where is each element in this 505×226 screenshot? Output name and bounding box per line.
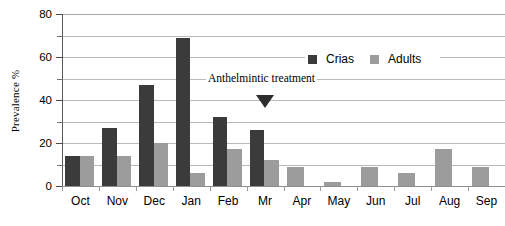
- x-axis-tick-label: Jan: [173, 193, 210, 209]
- legend-swatch-icon: [308, 55, 317, 64]
- bar-adults: [287, 167, 304, 186]
- bar-crias: [102, 128, 117, 186]
- x-axis-tick-label: Jul: [394, 193, 431, 209]
- x-axis-tick-label: Oct: [62, 193, 99, 209]
- bar-adults: [154, 143, 169, 186]
- bar-adults: [264, 160, 279, 186]
- x-axis-tick: [284, 186, 285, 191]
- x-axis-tick: [99, 186, 100, 191]
- legend-label: Adults: [388, 52, 421, 66]
- legend-entry: Adults: [370, 52, 437, 66]
- y-axis-tick-label: 20: [22, 138, 52, 148]
- bar-adults: [117, 156, 132, 186]
- bar-adults: [80, 156, 95, 186]
- x-axis-tick: [136, 186, 137, 191]
- x-axis-tick: [468, 186, 469, 191]
- bar-adults: [398, 173, 415, 186]
- y-axis-tick-label: 80: [22, 9, 52, 19]
- chart-legend: CriasAdults: [305, 50, 440, 68]
- x-axis-tick: [431, 186, 432, 191]
- x-axis-tick-label: Dec: [136, 193, 173, 209]
- x-axis-tick-label: May: [320, 193, 357, 209]
- x-axis-tick-label: Apr: [284, 193, 321, 209]
- bar-crias: [176, 38, 191, 186]
- bar-crias: [139, 85, 154, 186]
- legend-label: Crias: [326, 52, 354, 66]
- legend-entry: Crias: [308, 52, 370, 66]
- bar-crias: [65, 156, 80, 186]
- bar-adults: [435, 149, 452, 186]
- x-axis-tick-labels: OctNovDecJanFebMrAprMayJunJulAugSep: [62, 193, 505, 213]
- bar-crias: [250, 130, 265, 186]
- bar-chart: Prevalence % 020406080 OctNovDecJanFebMr…: [0, 0, 505, 226]
- bar-adults: [227, 149, 242, 186]
- x-axis-tick-label: Mr: [247, 193, 284, 209]
- x-axis-tick: [210, 186, 211, 191]
- x-axis-tick-label: Jun: [357, 193, 394, 209]
- legend-swatch-icon: [370, 55, 379, 64]
- bar-group-container: [62, 14, 505, 186]
- x-axis-tick-label: Nov: [99, 193, 136, 209]
- x-axis-tick: [320, 186, 321, 191]
- x-axis-tick: [247, 186, 248, 191]
- bar-adults: [361, 167, 378, 186]
- bar-adults: [190, 173, 205, 186]
- y-axis-tick-label: 0: [22, 181, 52, 191]
- x-axis-tick: [394, 186, 395, 191]
- y-axis-tick-label: 40: [22, 95, 52, 105]
- x-axis-tick: [62, 186, 63, 191]
- x-axis-tick: [173, 186, 174, 191]
- y-axis-tick-labels: 020406080: [20, 0, 52, 226]
- x-axis-tick-label: Sep: [468, 193, 505, 209]
- annotation-label: Anthelmintic treatment: [206, 72, 317, 84]
- x-axis-ticks: [62, 186, 505, 192]
- down-triangle-icon: [256, 95, 274, 108]
- bar-crias: [213, 117, 228, 186]
- x-axis-tick-label: Aug: [431, 193, 468, 209]
- bar-adults: [472, 167, 489, 186]
- x-axis-tick: [357, 186, 358, 191]
- y-axis-tick-label: 60: [22, 52, 52, 62]
- x-axis-tick-label: Feb: [210, 193, 247, 209]
